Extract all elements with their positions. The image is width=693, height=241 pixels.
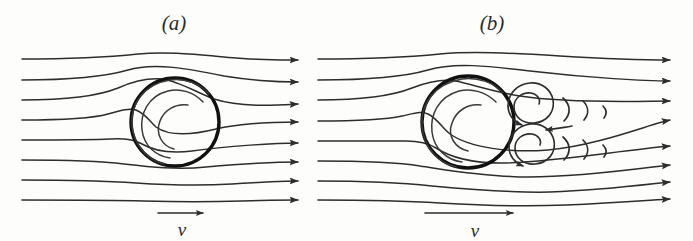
wake-arc	[603, 145, 606, 157]
panel-b-wake-arcs	[563, 98, 606, 160]
streamline	[318, 53, 670, 60]
streamline	[318, 199, 670, 206]
streamline	[22, 200, 298, 202]
velocity-label: v	[471, 220, 480, 241]
streamline	[318, 113, 670, 151]
panel-b: (b)	[318, 11, 670, 241]
panel-b-sphere	[422, 76, 514, 168]
wake-feed-arrow	[546, 126, 572, 130]
figure-container: (a) v	[0, 0, 693, 241]
panel-b-streamlines	[318, 53, 670, 206]
panel-a-streamlines	[22, 53, 298, 202]
wake-arc	[603, 106, 606, 118]
panel-a-sphere	[131, 78, 219, 166]
streamline	[22, 53, 298, 60]
sphere-shading-arc	[450, 105, 481, 151]
wake-arc	[563, 98, 569, 121]
sphere-shading-arc	[422, 79, 503, 167]
streamline	[318, 65, 670, 81]
panel-b-caption: (b)	[480, 11, 505, 35]
panel-a-velocity-indicator: v	[158, 213, 203, 240]
panel-b-velocity-indicator: v	[425, 213, 513, 241]
panel-a-caption: (a)	[162, 11, 187, 35]
velocity-label: v	[178, 219, 187, 240]
streamline	[22, 139, 298, 152]
panel-a: (a) v	[22, 11, 298, 240]
fluid-flow-diagram: (a) v	[0, 0, 693, 241]
streamline	[22, 180, 298, 185]
wake-arc	[583, 101, 588, 120]
streamline	[318, 181, 670, 192]
sphere-shading-arc	[158, 105, 188, 149]
